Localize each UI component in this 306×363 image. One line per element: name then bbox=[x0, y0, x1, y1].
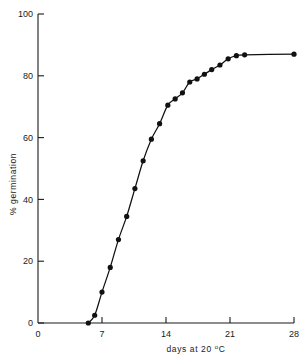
data-point bbox=[217, 62, 222, 67]
data-point bbox=[141, 158, 146, 163]
data-point bbox=[157, 121, 162, 126]
y-axis-ticks bbox=[38, 14, 44, 323]
data-point bbox=[234, 53, 239, 58]
y-axis: 020406080100 % germination bbox=[8, 9, 44, 328]
x-axis-title-post: C bbox=[219, 344, 226, 354]
data-point bbox=[108, 265, 113, 270]
germination-chart: 020406080100 % germination 07142128 days… bbox=[0, 0, 306, 363]
data-point bbox=[187, 79, 192, 84]
data-point bbox=[132, 186, 137, 191]
data-point bbox=[242, 52, 247, 57]
x-axis-title: days at 20 oC bbox=[167, 343, 226, 355]
y-tick-label-20: 20 bbox=[23, 256, 33, 266]
y-axis-tick-labels: 020406080100 bbox=[18, 9, 33, 328]
x-tick-label-0: 0 bbox=[35, 329, 40, 339]
x-tick-label-21: 21 bbox=[225, 329, 235, 339]
x-axis-ticks bbox=[102, 317, 294, 323]
data-point bbox=[149, 137, 154, 142]
y-axis-title: % germination bbox=[8, 153, 18, 215]
data-point bbox=[165, 103, 170, 108]
y-tick-label-40: 40 bbox=[23, 195, 33, 205]
data-point bbox=[124, 214, 129, 219]
y-tick-label-100: 100 bbox=[18, 9, 33, 19]
x-axis: 07142128 days at 20 oC bbox=[35, 317, 299, 354]
data-point bbox=[209, 67, 214, 72]
data-point bbox=[202, 72, 207, 77]
x-axis-tick-labels: 07142128 bbox=[35, 329, 299, 339]
x-tick-label-28: 28 bbox=[289, 329, 299, 339]
chart-svg: 020406080100 % germination 07142128 days… bbox=[0, 0, 306, 363]
data-point bbox=[116, 237, 121, 242]
x-axis-title-pre: days at 20 bbox=[167, 344, 215, 354]
series-line bbox=[88, 54, 294, 323]
series-markers bbox=[86, 52, 297, 326]
y-tick-label-80: 80 bbox=[23, 71, 33, 81]
data-point bbox=[226, 56, 231, 61]
y-tick-label-0: 0 bbox=[28, 318, 33, 328]
data-point bbox=[86, 320, 91, 325]
data-point bbox=[291, 52, 296, 57]
x-tick-label-14: 14 bbox=[161, 329, 171, 339]
data-point bbox=[99, 290, 104, 295]
data-point bbox=[173, 96, 178, 101]
data-point bbox=[180, 90, 185, 95]
data-point bbox=[92, 313, 97, 318]
y-tick-label-60: 60 bbox=[23, 133, 33, 143]
series-germination bbox=[86, 52, 297, 326]
x-tick-label-7: 7 bbox=[99, 329, 104, 339]
data-point bbox=[194, 76, 199, 81]
